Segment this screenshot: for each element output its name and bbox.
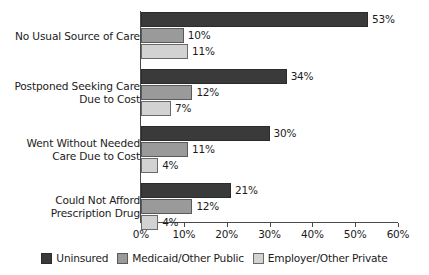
legend-item[interactable]: Employer/Other Private [253,252,388,264]
bar-row: 12% [141,199,429,214]
bar-2[interactable] [141,215,158,230]
bar-value-label: 53% [372,12,395,27]
bar-row: 11% [141,142,429,157]
bar-0[interactable] [141,183,231,198]
bar-value-label: 12% [196,199,219,214]
legend-label: Employer/Other Private [268,252,388,264]
bar-1[interactable] [141,85,192,100]
bar-value-label: 34% [291,69,314,84]
bar-2[interactable] [141,44,188,59]
bar-value-label: 30% [274,126,297,141]
bar-2[interactable] [141,158,158,173]
bar-group: Went Without Needed Care Due to Cost30%1… [0,126,429,174]
bar-2[interactable] [141,101,171,116]
bar-row: 21% [141,183,429,198]
chart-legend: UninsuredMedicaid/Other PublicEmployer/O… [0,252,429,264]
bar-value-label: 7% [175,101,191,116]
bar-0[interactable] [141,12,368,27]
bar-value-label: 12% [196,85,219,100]
legend-swatch-icon [253,253,264,264]
legend-swatch-icon [117,253,128,264]
bar-row: 4% [141,215,429,230]
bar-value-label: 4% [162,215,178,230]
bar-row: 11% [141,44,429,59]
category-label: No Usual Source of Care [0,30,140,43]
bar-1[interactable] [141,142,188,157]
bar-row: 10% [141,28,429,43]
legend-label: Medicaid/Other Public [132,252,243,264]
bar-value-label: 10% [188,28,211,43]
bar-row: 53% [141,12,429,27]
bar-chart: 0%10%20%30%40%50%60% No Usual Source of … [0,0,429,275]
legend-label: Uninsured [56,252,108,264]
bar-1[interactable] [141,199,192,214]
bar-group: Could Not Afford Prescription Drug21%12%… [0,183,429,231]
category-label: Postponed Seeking Care Due to Cost [0,80,140,106]
bar-value-label: 4% [162,158,178,173]
legend-item[interactable]: Medicaid/Other Public [117,252,243,264]
bar-value-label: 21% [235,183,258,198]
bar-row: 12% [141,85,429,100]
bar-0[interactable] [141,126,270,141]
category-label: Could Not Afford Prescription Drug [0,194,140,220]
bar-row: 30% [141,126,429,141]
bar-group: Postponed Seeking Care Due to Cost34%12%… [0,69,429,117]
legend-swatch-icon [41,253,52,264]
legend-item[interactable]: Uninsured [41,252,108,264]
category-label: Went Without Needed Care Due to Cost [0,137,140,163]
bar-row: 34% [141,69,429,84]
bar-value-label: 11% [192,44,215,59]
bar-row: 7% [141,101,429,116]
bar-row: 4% [141,158,429,173]
bar-1[interactable] [141,28,184,43]
bar-0[interactable] [141,69,287,84]
bar-value-label: 11% [192,142,215,157]
bar-group: No Usual Source of Care53%10%11% [0,12,429,60]
